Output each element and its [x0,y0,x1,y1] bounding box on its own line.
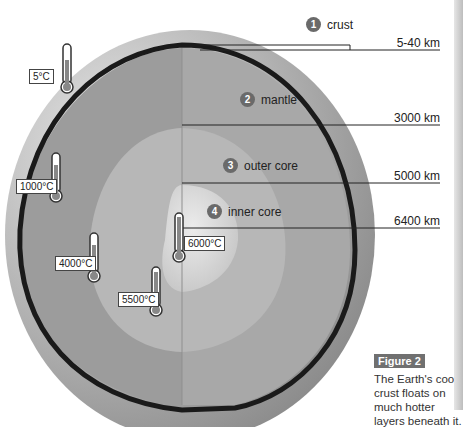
figure-tag: Figure 2 [374,354,425,368]
temperature-label: 5500°C [118,292,159,307]
temperature-label: 1000°C [16,179,57,194]
depth-label-crust: 5-40 km [380,36,440,50]
layer-label-crust: 1 crust [306,17,353,32]
depth-label-inner-core: 6400 km [380,214,440,228]
number-badge: 2 [240,92,255,107]
earth-layers-diagram: 1 crust 2 mantle 3 outer core 4 inner co… [0,0,463,427]
number-badge: 4 [207,204,222,219]
temperature-label: 4000°C [55,256,96,271]
figure-caption: The Earth's cool crust floats on much ho… [374,372,463,427]
depth-label-mantle: 3000 km [380,111,440,125]
layer-label-outer-core: 3 outer core [223,158,298,173]
layer-label-inner-core: 4 inner core [207,204,281,219]
temperature-label: 6000°C [184,236,225,251]
number-badge: 1 [306,17,321,32]
number-badge: 3 [223,158,238,173]
page-edge [454,0,463,410]
depth-label-outer-core: 5000 km [380,169,440,183]
temperature-label: 5°C [29,69,54,84]
layer-label-mantle: 2 mantle [240,92,297,107]
